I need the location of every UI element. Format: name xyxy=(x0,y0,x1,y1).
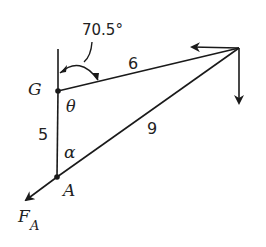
point-G-dot xyxy=(55,88,61,94)
force-FA-label: F xyxy=(17,206,31,226)
force-FA-main: F xyxy=(17,206,31,226)
horizontal-force-arrow xyxy=(192,47,239,48)
force-triangle-diagram: 70.5° G A θ α 5 6 9 F A xyxy=(0,0,266,247)
point-G-label: G xyxy=(28,79,42,99)
side-GA-line xyxy=(57,91,58,177)
side-GA-length-label: 5 xyxy=(38,125,48,144)
side-G-right-line xyxy=(58,48,239,91)
angle-value-label: 70.5° xyxy=(82,21,123,39)
angle-arc-arrow-left xyxy=(60,65,67,73)
angle-arc-arrow-right xyxy=(92,73,99,80)
point-A-label: A xyxy=(61,180,75,200)
point-A-dot xyxy=(54,174,60,180)
side-G-right-length-label: 6 xyxy=(128,54,138,73)
theta-label: θ xyxy=(66,97,76,116)
side-A-right-length-label: 9 xyxy=(147,119,157,138)
force-FA-subscript: A xyxy=(29,218,39,233)
alpha-label: α xyxy=(64,142,76,162)
force-FA-arrow xyxy=(26,177,57,200)
angle-leader-line xyxy=(84,42,92,62)
